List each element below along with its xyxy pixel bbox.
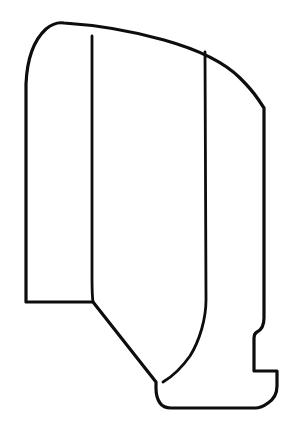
drawing-canvas: Technical Outline Drawing Black line dra… (0, 0, 293, 427)
interior-seam-left-path (92, 36, 93, 302)
line-drawing-svg (0, 0, 293, 427)
canvas-background (0, 0, 293, 427)
